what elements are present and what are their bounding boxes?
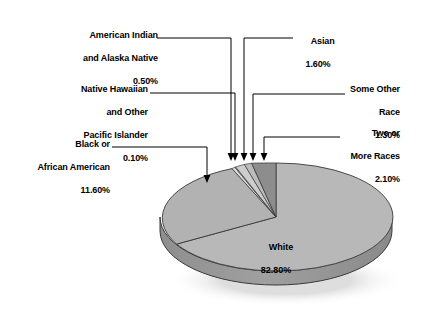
callout-line-1: Native Hawaiian [81, 84, 148, 94]
callout-line-1: American Indian [89, 30, 158, 40]
callout-line-2: and Other [106, 107, 148, 117]
leader-line-native-hawaiian-pacific-islander [150, 93, 238, 161]
callout-line-2: More Races [350, 151, 400, 161]
callout-line-1: Some Other [350, 84, 400, 94]
callout-line-2: Race [379, 107, 400, 117]
callout-line-2: and Alaska Native [83, 53, 158, 63]
slice-label-name: White [269, 242, 294, 252]
callout-percent: 1.60% [282, 59, 354, 71]
callout-line-1: Two or [372, 128, 400, 138]
leader-line-american-indian-alaska-native [157, 38, 234, 161]
slice-label-white: White 82.80% [240, 230, 312, 299]
callout-label-black-african-american: Black or African American 11.60% [0, 127, 110, 219]
callout-percent: 2.10% [284, 174, 400, 186]
callout-line-2: African American [37, 162, 110, 172]
callout-line-1: Black or [75, 139, 110, 149]
pie-chart-figure: American Indian and Alaska Native 0.50% … [0, 0, 428, 311]
callout-label-two-or-more-races: Two or More Races 2.10% [284, 116, 400, 208]
callout-percent: 11.60% [0, 185, 110, 197]
slice-label-percent: 82.80% [240, 265, 312, 277]
callout-line-1: Asian [311, 36, 335, 46]
